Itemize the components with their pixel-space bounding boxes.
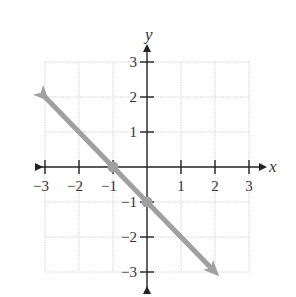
svg-text:3: 3 bbox=[245, 178, 253, 194]
marked-point bbox=[108, 162, 119, 173]
svg-text:1: 1 bbox=[130, 124, 138, 140]
svg-text:−1: −1 bbox=[101, 178, 117, 194]
svg-text:3: 3 bbox=[130, 54, 138, 70]
svg-text:−2: −2 bbox=[121, 229, 137, 245]
svg-text:2: 2 bbox=[130, 89, 138, 105]
x-axis-label: x bbox=[268, 157, 277, 176]
svg-text:−2: −2 bbox=[67, 178, 83, 194]
svg-text:2: 2 bbox=[211, 178, 219, 194]
y-axis-label: y bbox=[143, 25, 153, 44]
svg-text:−3: −3 bbox=[121, 264, 137, 280]
svg-text:−1: −1 bbox=[121, 194, 137, 210]
axes bbox=[41, 46, 265, 288]
marked-point bbox=[142, 197, 153, 208]
svg-text:1: 1 bbox=[177, 178, 185, 194]
svg-text:−3: −3 bbox=[33, 178, 49, 194]
coordinate-plane: −3−2−1123321−1−2−3 x y bbox=[0, 0, 296, 297]
